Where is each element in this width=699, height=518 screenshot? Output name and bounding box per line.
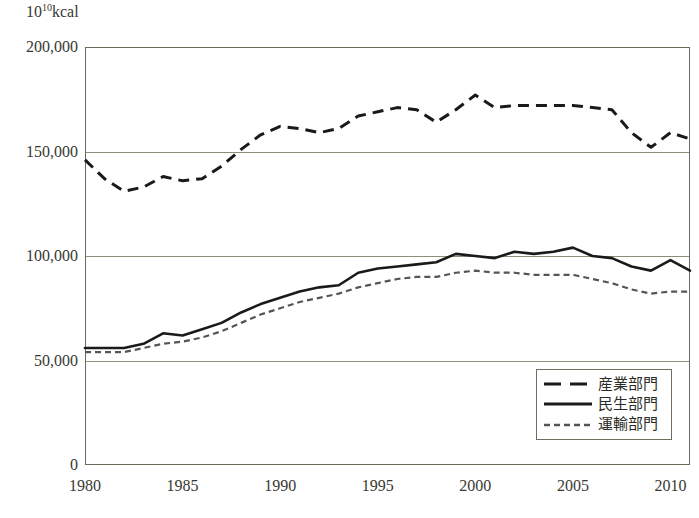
x-tick-label-1990: 1990 — [250, 478, 310, 494]
legend-label-0: 産業部門 — [598, 376, 658, 393]
legend-swatch-dashed-icon — [543, 378, 593, 390]
y-axis-unit-exponent: 10 — [42, 2, 52, 13]
y-axis-unit-mantissa: 10 — [26, 3, 42, 20]
gridline-y-150000 — [86, 152, 689, 153]
y-axis-unit-suffix: kcal — [52, 3, 79, 20]
gridline-y-100000 — [86, 256, 689, 257]
legend-item-1: 民生部門 — [543, 394, 665, 414]
x-tick-label-1995: 1995 — [348, 478, 408, 494]
x-tick-label-1980: 1980 — [55, 478, 115, 494]
y-tick-label-200000: 200,000 — [0, 39, 78, 55]
legend-item-2: 運輸部門 — [543, 415, 665, 435]
legend-item-0: 産業部門 — [543, 374, 665, 394]
legend-label-2: 運輸部門 — [598, 416, 658, 433]
legend-swatch-solid-icon — [543, 398, 593, 410]
legend-label-1: 民生部門 — [598, 396, 658, 413]
y-axis-unit-label: 1010kcal — [26, 2, 79, 22]
x-tick-label-1985: 1985 — [153, 478, 213, 494]
legend-swatch-dotted-icon — [543, 419, 593, 431]
gridline-y-50000 — [86, 361, 689, 362]
y-tick-label-100000: 100,000 — [0, 248, 78, 264]
y-tick-label-50000: 50,000 — [0, 353, 78, 369]
line-chart: 1010kcal 050,000100,000150,000200,000 19… — [0, 0, 699, 518]
y-tick-label-150000: 150,000 — [0, 144, 78, 160]
x-tick-label-2000: 2000 — [445, 478, 505, 494]
legend: 産業部門民生部門運輸部門 — [536, 369, 672, 440]
x-tick-label-2010: 2010 — [640, 478, 699, 494]
x-tick-label-2005: 2005 — [543, 478, 603, 494]
y-tick-label-0: 0 — [0, 457, 78, 473]
